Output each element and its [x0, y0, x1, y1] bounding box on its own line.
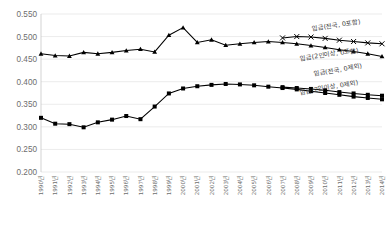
data-point-marker — [39, 116, 43, 120]
x-axis-tick-label: 1993년 — [80, 176, 87, 195]
data-point-marker — [110, 118, 114, 122]
x-axis-tick-label: 1995년 — [108, 176, 115, 195]
data-point-marker — [281, 86, 285, 90]
series-annotation-label: 임금(전국, 0제외) — [313, 61, 363, 78]
data-point-marker — [167, 91, 171, 95]
x-axis-tick-label: 2008년 — [293, 176, 300, 195]
y-axis-tick-label: 0.350 — [17, 100, 38, 109]
x-axis-tick-label: 2010년 — [321, 176, 328, 195]
chart-canvas: 0.2000.2500.3000.3500.4000.4500.5000.550… — [0, 0, 388, 227]
data-point-marker — [252, 83, 256, 87]
data-point-marker — [266, 85, 270, 89]
data-point-marker — [153, 105, 157, 109]
x-axis-tick-label: 2004년 — [236, 176, 243, 195]
x-axis-tick-label: 2005년 — [250, 176, 257, 195]
x-axis-tick-label: 1996년 — [122, 176, 129, 195]
x-axis-tick-label: 1999년 — [165, 176, 172, 195]
x-axis-tick-label: 1991년 — [51, 176, 58, 195]
data-point-marker — [53, 122, 57, 126]
y-axis-tick-label: 0.450 — [17, 55, 38, 64]
x-axis-tick-label: 2009년 — [307, 176, 314, 195]
x-axis-tick-label: 2012년 — [350, 176, 357, 195]
data-point-marker — [352, 95, 356, 99]
data-point-marker — [124, 114, 128, 118]
data-point-marker — [238, 82, 242, 86]
data-point-marker — [181, 86, 185, 90]
y-axis-tick-label: 0.550 — [17, 10, 38, 19]
x-axis-tick-label: 2006년 — [265, 176, 272, 195]
x-axis-tick-label: 1997년 — [137, 176, 144, 195]
y-axis-tick-label: 0.200 — [17, 168, 38, 177]
data-point-marker — [67, 122, 71, 126]
x-axis-tick-label: 2001년 — [193, 176, 200, 195]
x-axis-tick-label: 2002년 — [208, 176, 215, 195]
series-annotation-label: 임금(전국, 0포함) — [311, 17, 361, 33]
line-chart: 0.2000.2500.3000.3500.4000.4500.5000.550… — [0, 0, 388, 227]
data-point-marker — [195, 84, 199, 88]
data-point-marker — [366, 96, 370, 100]
x-axis-tick-label: 1992년 — [66, 176, 73, 195]
y-axis-tick-label: 0.400 — [17, 78, 38, 87]
x-axis-tick-label: 2003년 — [222, 176, 229, 195]
data-point-marker — [181, 25, 186, 29]
data-point-marker — [337, 93, 341, 97]
x-axis-tick-label: 1990년 — [37, 176, 44, 195]
x-axis-tick-label: 2014년 — [378, 176, 385, 195]
data-point-marker — [224, 82, 228, 86]
x-axis-tick-label: 2013년 — [364, 176, 371, 195]
data-point-marker — [380, 97, 384, 101]
x-axis-tick-label: 1998년 — [151, 176, 158, 195]
data-point-marker — [166, 33, 171, 37]
data-point-marker — [209, 37, 214, 41]
data-point-marker — [82, 125, 86, 129]
data-point-marker — [210, 83, 214, 87]
data-point-marker — [96, 120, 100, 124]
data-point-marker — [380, 94, 384, 98]
x-axis-tick-label: 1994년 — [94, 176, 101, 195]
y-axis-tick-label: 0.300 — [17, 123, 38, 132]
data-point-marker — [138, 117, 142, 121]
y-axis-tick-label: 0.250 — [17, 145, 38, 154]
x-axis-tick-label: 2011년 — [336, 176, 343, 195]
x-axis-tick-label: 2000년 — [179, 176, 186, 195]
y-axis-tick-label: 0.500 — [17, 33, 38, 42]
x-axis-tick-label: 2007년 — [279, 176, 286, 195]
